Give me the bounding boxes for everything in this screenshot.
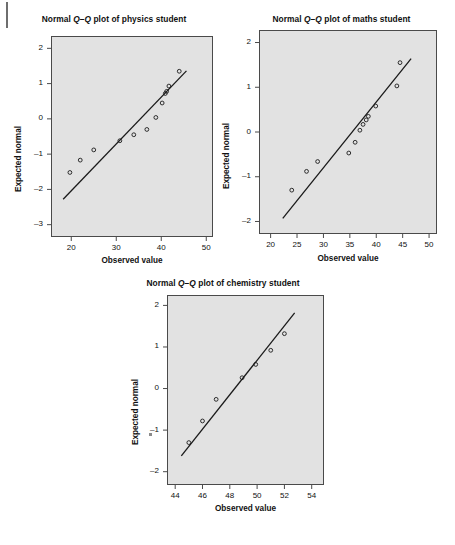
- x-tick-label: 46: [191, 491, 213, 500]
- x-axis-label-physics: Observed value: [51, 256, 213, 265]
- data-point: [177, 69, 181, 73]
- x-tick-label: 30: [105, 243, 127, 252]
- data-point: [187, 441, 191, 445]
- data-point: [154, 116, 158, 120]
- x-tick-label: 50: [195, 243, 217, 252]
- plot-graphics-maths: [228, 14, 455, 272]
- y-tick-label: –2: [229, 216, 251, 225]
- y-tick-label: –1: [21, 149, 43, 158]
- y-tick-label: 2: [21, 43, 43, 52]
- y-tick-label: –1: [137, 425, 159, 434]
- x-tick-label: 20: [260, 240, 282, 249]
- data-point: [269, 348, 273, 352]
- y-tick-label: –2: [21, 184, 43, 193]
- data-point: [68, 171, 72, 175]
- data-point: [283, 332, 287, 336]
- x-tick-label: 54: [301, 491, 323, 500]
- qq-plot-figure: Normal Q–Q plot of physics student Expec…: [0, 0, 455, 545]
- data-point: [361, 122, 365, 126]
- data-point: [353, 140, 357, 144]
- y-tick-label: –2: [137, 466, 159, 475]
- data-point: [92, 148, 96, 152]
- data-point: [366, 114, 370, 118]
- y-tick-label: 1: [229, 82, 251, 91]
- y-tick-label: 0: [137, 383, 159, 392]
- y-tick-label: 2: [137, 300, 159, 309]
- x-tick-label: 50: [418, 240, 440, 249]
- y-tick-label: 0: [21, 113, 43, 122]
- x-tick-label: 40: [150, 243, 172, 252]
- x-tick-label: 50: [246, 491, 268, 500]
- reference-line: [181, 313, 294, 456]
- y-tick-label: 1: [137, 341, 159, 350]
- y-tick-label: 2: [229, 37, 251, 46]
- data-point: [167, 84, 171, 88]
- x-axis-label-chemistry: Observed value: [167, 504, 324, 513]
- x-tick-label: 44: [164, 491, 186, 500]
- x-tick-label: 52: [273, 491, 295, 500]
- y-axis-label-physics: Expected normal: [14, 126, 23, 192]
- data-point: [201, 419, 205, 423]
- data-point: [214, 397, 218, 401]
- data-point: [358, 128, 362, 132]
- data-point: [316, 160, 320, 164]
- chart-panel-physics: Normal Q–Q plot of physics student Expec…: [0, 14, 228, 272]
- data-point: [132, 133, 136, 137]
- data-point: [395, 84, 399, 88]
- x-tick-label: 30: [312, 240, 334, 249]
- data-point: [78, 158, 82, 162]
- x-tick-label: 25: [286, 240, 308, 249]
- reference-line: [283, 59, 411, 219]
- x-tick-label: 48: [219, 491, 241, 500]
- data-point: [364, 118, 368, 122]
- x-tick-label: 45: [392, 240, 414, 249]
- x-tick-label: 20: [60, 243, 82, 252]
- chart-panel-maths: Normal Q–Q plot of maths student Expecte…: [228, 14, 455, 272]
- data-point: [145, 128, 149, 132]
- y-tick-label: –3: [21, 219, 43, 228]
- data-point: [305, 169, 309, 173]
- x-tick-label: 35: [339, 240, 361, 249]
- data-point: [290, 188, 294, 192]
- plot-graphics-physics: [0, 14, 228, 272]
- data-point: [374, 104, 378, 108]
- x-tick-label: 40: [365, 240, 387, 249]
- data-point: [160, 101, 164, 105]
- data-point: [398, 61, 402, 65]
- y-tick-label: 1: [21, 78, 43, 87]
- x-axis-label-maths: Observed value: [259, 254, 437, 263]
- data-point: [347, 151, 351, 155]
- y-tick-label: 0: [229, 127, 251, 136]
- y-tick-label: –1: [229, 171, 251, 180]
- chart-panel-chemistry: Normal Q–Q plot of chemistry student Exp…: [114, 278, 355, 536]
